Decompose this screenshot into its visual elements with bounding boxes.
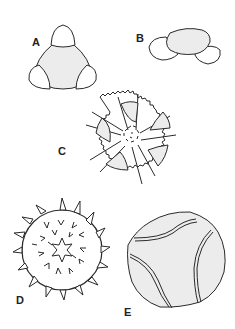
pollen-diagram: A B C: [0, 0, 235, 329]
grain-c-pore-2: [150, 112, 170, 130]
grain-c-center-marks: [124, 126, 139, 142]
panel-label-c: C: [58, 145, 66, 157]
panel-e: E: [124, 212, 225, 318]
panel-label-b: B: [136, 32, 144, 44]
panel-label-a: A: [32, 36, 40, 48]
panel-c: C: [58, 90, 176, 184]
grain-c-pore-3: [148, 145, 168, 166]
panel-d: D: [13, 198, 110, 306]
grain-c-pore-1: [121, 102, 138, 122]
grain-b-body: [167, 29, 211, 55]
panel-label-e: E: [124, 306, 131, 318]
grain-a-top-lobe: [51, 25, 75, 47]
panel-a: A: [29, 25, 96, 89]
panel-label-d: D: [16, 294, 24, 306]
panel-b: B: [136, 29, 220, 64]
